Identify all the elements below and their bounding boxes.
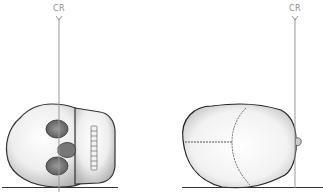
left-skull-figure (2, 16, 118, 192)
diagram-canvas (0, 0, 323, 193)
right-skull-figure (182, 16, 323, 188)
